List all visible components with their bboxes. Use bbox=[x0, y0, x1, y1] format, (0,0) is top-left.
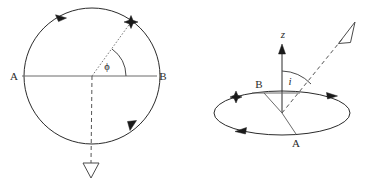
z-axis-arrowhead bbox=[279, 44, 286, 54]
face-on-orbit-panel: A B ϕ bbox=[10, 8, 167, 178]
ellipse-direction-arrow-bottom-left bbox=[235, 128, 247, 135]
spin-axis-line-left bbox=[91, 76, 92, 163]
node-a-connector bbox=[282, 113, 296, 134]
label-node-a-left: A bbox=[10, 70, 18, 82]
phi-angle-arc bbox=[112, 49, 126, 76]
label-node-a-right: A bbox=[292, 137, 300, 149]
line-of-sight-arrowhead bbox=[339, 22, 356, 44]
label-node-b-right: B bbox=[255, 78, 262, 90]
label-angle-i: i bbox=[288, 75, 291, 87]
label-axis-z: z bbox=[280, 28, 286, 40]
node-b-connector bbox=[264, 93, 282, 113]
label-angle-phi: ϕ bbox=[104, 61, 110, 72]
inclination-angle-arc bbox=[282, 71, 311, 84]
inclined-orbit-panel: z B i A bbox=[214, 22, 355, 149]
label-node-b-left: B bbox=[159, 70, 166, 82]
spin-axis-arrowhead-left bbox=[83, 163, 99, 178]
diagram-canvas: A B ϕ bbox=[0, 0, 368, 190]
figure-root: A B ϕ bbox=[0, 0, 368, 190]
star-marker-right bbox=[230, 91, 242, 103]
